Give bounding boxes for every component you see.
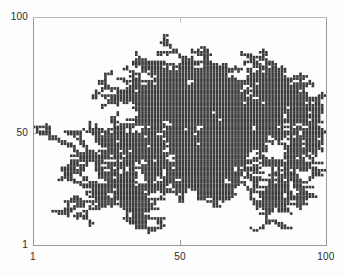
y-tick-label-1: 1: [0, 239, 28, 250]
x-tick-label-100: 100: [310, 251, 342, 262]
y-tick-label-50: 50: [0, 127, 28, 138]
x-tick-label-50: 50: [167, 251, 193, 262]
x-tick-label-1: 1: [20, 251, 46, 262]
y-tick-label-100: 100: [0, 11, 28, 22]
x-axis-line: [33, 245, 327, 246]
dla-cluster-plot-area: [34, 18, 326, 245]
dla-figure: 100 50 1 1 50 100: [0, 0, 346, 275]
right-axis-line: [326, 17, 327, 246]
dla-cluster-points: [34, 18, 326, 245]
